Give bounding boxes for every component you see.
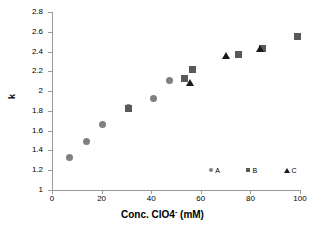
x-tick: 20 (102, 190, 103, 194)
data-point-c (222, 52, 230, 59)
y-tick-label: 2.4 (32, 48, 43, 56)
x-tick: 80 (250, 190, 251, 194)
legend-item-b[interactable]: B (246, 166, 257, 174)
y-tick-label: 1.6 (32, 127, 43, 135)
data-point-b (125, 105, 132, 112)
legend-marker-triangle-icon (284, 168, 290, 173)
y-tick: 2 (48, 91, 52, 92)
y-tick-label: 2 (39, 87, 43, 95)
data-point-a (99, 121, 106, 128)
x-tick: 60 (201, 190, 202, 194)
y-tick: 1.8 (48, 111, 52, 112)
y-tick-label: 1.8 (32, 107, 43, 115)
y-tick: 2.8 (48, 12, 52, 13)
data-point-a (66, 154, 73, 161)
scatter-chart: 11.21.41.61.822.22.42.62.8 020406080100 … (0, 0, 325, 230)
y-tick-label: 1 (39, 186, 43, 194)
legend-label: B (252, 167, 257, 174)
x-tick-label: 80 (246, 195, 255, 203)
x-axis-title: Conc. ClO4- (mM) (0, 206, 325, 220)
legend-item-c[interactable]: C (284, 166, 297, 174)
x-tick-label: 100 (293, 195, 306, 203)
data-point-a (166, 77, 173, 84)
x-tick: 0 (52, 190, 53, 194)
data-point-b (235, 51, 242, 58)
x-tick: 100 (300, 190, 301, 194)
data-point-c (186, 79, 194, 86)
data-point-b (189, 66, 196, 73)
legend-item-a[interactable]: A (209, 166, 220, 174)
x-tick-label: 20 (97, 195, 106, 203)
legend-label: A (215, 167, 220, 174)
x-tick-label: 60 (196, 195, 205, 203)
y-tick-label: 2.8 (32, 8, 43, 16)
x-tick-label: 0 (50, 195, 54, 203)
y-axis-title: k (8, 94, 17, 99)
y-tick: 1.6 (48, 131, 52, 132)
legend-marker-square-icon (246, 168, 250, 172)
x-tick-label: 40 (147, 195, 156, 203)
data-point-b (294, 33, 301, 40)
y-tick-label: 1.2 (32, 166, 43, 174)
legend-marker-circle-icon (209, 168, 213, 172)
y-tick: 1.4 (48, 150, 52, 151)
y-tick: 2.2 (48, 71, 52, 72)
data-point-a (150, 95, 157, 102)
legend-label: C (292, 167, 297, 174)
x-axis-title-base: Conc. ClO4 (121, 209, 175, 220)
x-tick: 40 (151, 190, 152, 194)
y-tick: 1.2 (48, 170, 52, 171)
data-point-c (256, 45, 264, 52)
y-tick: 2.6 (48, 32, 52, 33)
x-axis-title-unit: (mM) (177, 209, 204, 220)
y-tick-label: 2.2 (32, 67, 43, 75)
plot-area: 11.21.41.61.822.22.42.62.8 020406080100 … (52, 12, 300, 190)
x-axis-line (52, 190, 301, 191)
y-tick: 2.4 (48, 52, 52, 53)
y-tick-label: 2.6 (32, 28, 43, 36)
y-tick-label: 1.4 (32, 146, 43, 154)
data-point-a (83, 138, 90, 145)
